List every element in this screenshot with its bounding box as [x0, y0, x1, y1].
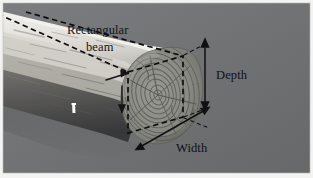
depth-label: Depth: [216, 68, 248, 82]
width-label: Width: [176, 141, 208, 155]
rectangular-beam-label-line1: Rectangular: [67, 23, 129, 37]
rectangular-beam-label-line2: beam: [86, 40, 114, 54]
log-beam-diagram: Depth Width Rectangular beam: [0, 0, 313, 178]
figure-container: Depth Width Rectangular beam: [0, 0, 313, 178]
